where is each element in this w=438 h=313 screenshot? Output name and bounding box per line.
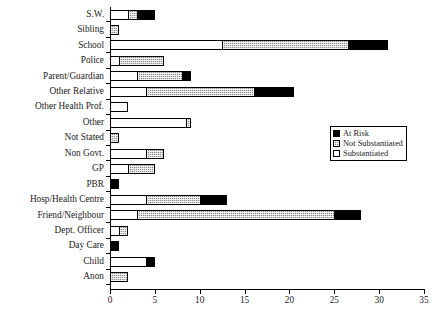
- bar-segment-at-risk: [137, 10, 155, 20]
- y-axis-label-day-care: Day Care: [0, 240, 104, 251]
- bar-segment-not-substantiated: [146, 87, 254, 97]
- bar-row: [110, 22, 424, 37]
- bar-segment-at-risk: [334, 210, 361, 220]
- bar-segment-substantiated: [110, 226, 119, 236]
- x-tick: [289, 289, 290, 294]
- bar-segment-not-substantiated: [146, 195, 200, 205]
- y-axis-label-school: School: [0, 40, 104, 51]
- bar-stack: [110, 210, 361, 220]
- bar-stack: [110, 118, 191, 128]
- bar-stack: [110, 164, 155, 174]
- bar-segment-at-risk: [254, 87, 294, 97]
- bar-segment-not-substantiated: [137, 210, 334, 220]
- bar-segment-substantiated: [110, 56, 119, 66]
- y-axis-label-pbr: PBR: [0, 179, 104, 190]
- bar-stack: [110, 195, 227, 205]
- x-tick-label-10: 10: [195, 295, 204, 306]
- bar-segment-not-substantiated: [110, 133, 119, 143]
- bar-stack: [110, 226, 128, 236]
- legend-label-not-substantiated: Not Substantiated: [343, 139, 403, 148]
- bar-segment-not-substantiated: [119, 56, 164, 66]
- y-axis-label-non-govt: Non Govt.: [0, 148, 104, 159]
- bar-segment-substantiated: [110, 210, 137, 220]
- bar-row: [110, 254, 424, 269]
- bar-segment-at-risk: [200, 195, 227, 205]
- bar-segment-substantiated: [110, 102, 128, 112]
- x-tick-label-15: 15: [240, 295, 249, 306]
- y-axis-label-other-health-prof: Other Health Prof.: [0, 101, 104, 112]
- bar-segment-not-substantiated: [222, 40, 348, 50]
- bar-stack: [110, 257, 155, 267]
- x-tick: [334, 289, 335, 294]
- bar-row: [110, 239, 424, 254]
- x-axis-ticks: 05101520253035: [110, 289, 424, 311]
- bar-segment-substantiated: [110, 195, 146, 205]
- y-axis-label-dept-officer: Dept. Officer: [0, 225, 104, 236]
- bar-row: [110, 7, 424, 22]
- x-tick-label-0: 0: [108, 295, 113, 306]
- bar-row: [110, 270, 424, 285]
- bar-stack: [110, 272, 128, 282]
- legend-swatch-at-risk: [333, 130, 340, 137]
- bar-row: [110, 161, 424, 176]
- bar-segment-not-substantiated: [146, 149, 164, 159]
- y-axis-label-anon: Anon: [0, 271, 104, 282]
- x-tick-label-5: 5: [153, 295, 158, 306]
- bar-segment-at-risk: [110, 179, 119, 189]
- bar-row: [110, 38, 424, 53]
- legend-label-substantiated: Substantiated: [343, 149, 388, 158]
- bar-row: [110, 223, 424, 238]
- bar-segment-not-substantiated: [128, 10, 137, 20]
- y-axis-label-sibling: Sibling: [0, 24, 104, 35]
- bar-stack: [110, 71, 191, 81]
- x-tick: [379, 289, 380, 294]
- x-tick: [245, 289, 246, 294]
- y-axis-label-gp: GP: [0, 163, 104, 174]
- bar-stack: [110, 149, 164, 159]
- legend-swatch-substantiated: [333, 150, 340, 157]
- bar-row: [110, 84, 424, 99]
- x-tick: [110, 289, 111, 294]
- bar-stack: [110, 102, 128, 112]
- bar-stack: [110, 179, 119, 189]
- x-tick: [424, 289, 425, 294]
- y-axis-label-friend-neighbour: Friend/Neighbour: [0, 210, 104, 221]
- bar-stack: [110, 241, 119, 251]
- bar-segment-at-risk: [182, 71, 191, 81]
- bar-segment-substantiated: [110, 118, 186, 128]
- bar-segment-substantiated: [110, 87, 146, 97]
- bar-row: [110, 208, 424, 223]
- bar-segment-not-substantiated: [110, 25, 119, 35]
- legend-swatch-not-substantiated: [333, 140, 340, 147]
- y-axis-label-other: Other: [0, 117, 104, 128]
- bar-row: [110, 53, 424, 68]
- x-tick-label-20: 20: [285, 295, 294, 306]
- bar-segment-substantiated: [110, 10, 128, 20]
- legend-item-not-substantiated: Not Substantiated: [333, 139, 403, 148]
- x-tick-label-35: 35: [419, 295, 428, 306]
- chart-legend: At Risk Not Substantiated Substantiated: [330, 126, 407, 161]
- bar-segment-not-substantiated: [119, 226, 128, 236]
- y-axis-label-parent-guardian: Parent/Guardian: [0, 71, 104, 82]
- bar-stack: [110, 87, 294, 97]
- bar-segment-substantiated: [110, 71, 137, 81]
- bar-segment-not-substantiated: [186, 118, 190, 128]
- bar-stack: [110, 10, 155, 20]
- y-axis-category-labels: S.W.SiblingSchoolPoliceParent/GuardianOt…: [0, 7, 106, 285]
- x-tick: [155, 289, 156, 294]
- y-axis-label-hosp-health-centre: Hosp/Health Centre: [0, 194, 104, 205]
- legend-label-at-risk: At Risk: [343, 129, 369, 138]
- x-tick-label-25: 25: [330, 295, 339, 306]
- x-tick-label-30: 30: [374, 295, 383, 306]
- bar-row: [110, 100, 424, 115]
- y-axis-label-other-relative: Other Relative: [0, 86, 104, 97]
- bar-segment-at-risk: [146, 257, 155, 267]
- y-axis-label-child: Child: [0, 256, 104, 267]
- legend-item-substantiated: Substantiated: [333, 149, 403, 158]
- bar-segment-substantiated: [110, 40, 222, 50]
- bar-segment-substantiated: [110, 164, 128, 174]
- bar-segment-at-risk: [110, 241, 119, 251]
- bar-stack: [110, 133, 119, 143]
- legend-item-at-risk: At Risk: [333, 129, 403, 138]
- bar-segment-not-substantiated: [110, 272, 128, 282]
